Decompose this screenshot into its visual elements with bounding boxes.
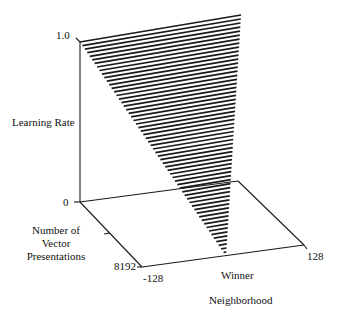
y-axis-label-line-3: Presentations <box>24 250 88 263</box>
x-axis-label-line-1: Winner <box>221 269 254 282</box>
hatch-line <box>207 224 229 228</box>
hatch-line <box>87 27 240 53</box>
x-tick-min: -128 <box>143 272 163 285</box>
hatch-line <box>187 192 230 199</box>
z-tick-max: 1.0 <box>56 29 70 42</box>
floor-right-edge <box>238 181 304 245</box>
hatch-line <box>180 180 231 189</box>
floor-left-edge <box>80 202 142 267</box>
origin-tick-label: 0 <box>63 196 69 209</box>
hatch-line <box>124 87 237 106</box>
hatch-line <box>216 240 227 242</box>
hatch-line <box>219 244 227 245</box>
y-tick-max: 8192 <box>114 260 136 273</box>
hatch-line <box>209 228 228 231</box>
hatch-line <box>204 220 228 224</box>
learning-rate-surface-hatch <box>80 15 241 252</box>
hatch-line <box>151 132 234 146</box>
x-end-tick <box>304 245 307 249</box>
hatch-line <box>214 236 228 238</box>
hatch-line <box>146 124 235 139</box>
y-axis-label-line-2: Vector <box>24 237 88 250</box>
hatch-line <box>148 128 234 142</box>
y-axis-label-line-1: Number of <box>24 224 88 237</box>
y-axis-label: Number of Vector Presentations <box>24 224 88 263</box>
x-tick-max: 128 <box>307 250 324 263</box>
hatch-line <box>221 248 226 249</box>
x-axis-label-line-2: Neighborhood <box>209 294 273 307</box>
z-top-tick <box>76 38 80 42</box>
y-mid-tick <box>104 233 110 234</box>
hatch-line <box>82 19 240 46</box>
learning-rate-3d-plot <box>0 0 337 314</box>
hatch-line <box>119 79 237 99</box>
z-axis-label: Learning Rate <box>12 116 75 129</box>
hatch-line <box>211 232 227 235</box>
hatch-line <box>185 188 231 196</box>
hatch-line <box>85 23 241 49</box>
hatch-line <box>121 83 236 102</box>
hatch-line <box>143 119 234 134</box>
hatch-line <box>126 91 236 110</box>
hatch-line <box>80 15 241 42</box>
